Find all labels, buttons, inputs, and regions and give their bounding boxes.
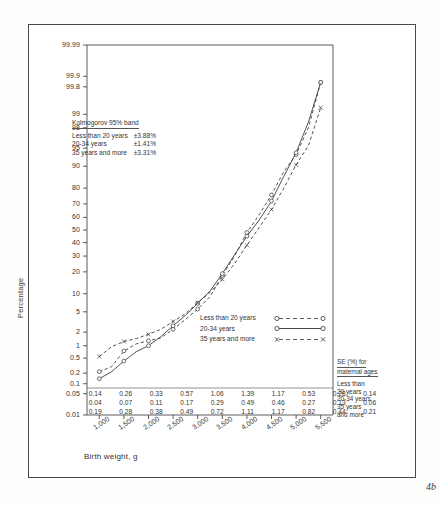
legend-label: 35 years and more bbox=[200, 334, 274, 345]
se-side-legend: SE (%) for maternal ages Less than 20 ye… bbox=[337, 358, 407, 418]
y-tick-label: 60 bbox=[38, 213, 80, 220]
y-tick-label: 80 bbox=[38, 184, 80, 191]
y-tick-label: 5 bbox=[38, 308, 80, 315]
se-cell: 0.72 bbox=[202, 407, 233, 416]
se-cell: 0.57 bbox=[172, 389, 203, 398]
se-cell: 0.17 bbox=[172, 398, 203, 407]
se-cell: 0.27 bbox=[294, 398, 325, 407]
chart-legend: Less than 20 years 20-34 years 35 year bbox=[200, 313, 326, 345]
y-tick-label: 99 bbox=[38, 110, 80, 117]
se-header-line2: maternal ages bbox=[337, 368, 378, 378]
kolmogorov-label: 35 years and more bbox=[72, 149, 128, 157]
y-tick-label: 99.8 bbox=[38, 83, 80, 90]
kolmogorov-row: 35 years and more ±3.31% bbox=[72, 149, 156, 157]
se-cell: 0.14 bbox=[80, 389, 111, 398]
y-tick-label: 0.01 bbox=[38, 411, 80, 418]
kolmogorov-row: Less than 20 years ±3.88% bbox=[72, 132, 156, 140]
se-cell: 0.28 bbox=[111, 407, 142, 416]
y-tick-label: 30 bbox=[38, 252, 80, 259]
se-cell: 0.04 bbox=[80, 398, 111, 407]
y-tick-label: 40 bbox=[38, 239, 80, 246]
y-tick-label: 90 bbox=[38, 162, 80, 169]
se-row-label: and more bbox=[337, 411, 407, 419]
legend-item-20-34: 20-34 years bbox=[200, 324, 326, 335]
se-cell: 0.49 bbox=[172, 407, 203, 416]
se-cell: 0.46 bbox=[263, 398, 294, 407]
se-cell: 0.49 bbox=[233, 398, 264, 407]
se-header-line1: SE (%) for bbox=[337, 358, 366, 368]
se-row-label: Less than bbox=[337, 380, 407, 388]
se-cell: 1.39 bbox=[233, 389, 264, 398]
se-cell: 0.38 bbox=[141, 407, 172, 416]
y-tick-label: 0.2 bbox=[38, 369, 80, 376]
y-tick-label: 50 bbox=[38, 226, 80, 233]
se-cell: 1.17 bbox=[263, 389, 294, 398]
se-cell: 1.17 bbox=[263, 407, 294, 416]
se-cell: 0.11 bbox=[141, 398, 172, 407]
figure-number: 4b bbox=[426, 481, 436, 492]
kolmogorov-row: 20-34 years ±1.41% bbox=[72, 140, 156, 148]
kolmogorov-value: ±3.88% bbox=[128, 132, 156, 140]
legend-marker-dashed-circle bbox=[274, 314, 326, 323]
legend-marker-dashed-cross bbox=[274, 335, 326, 344]
legend-label: 20-34 years bbox=[200, 324, 274, 335]
se-cell: 0.33 bbox=[141, 389, 172, 398]
y-axis-title: Percentage bbox=[16, 278, 25, 318]
legend-marker-solid-circle bbox=[274, 324, 326, 333]
y-tick-label: 20 bbox=[38, 268, 80, 275]
figure-page: 99.9999.999.8999895908070605040302010521… bbox=[0, 0, 442, 506]
y-tick-label: 2 bbox=[38, 328, 80, 335]
kolmogorov-table: Less than 20 years ±3.88% 20-34 years ±1… bbox=[72, 132, 156, 157]
se-cell: 0.19 bbox=[80, 407, 111, 416]
se-cell: 0.26 bbox=[111, 389, 142, 398]
se-row-label: 35 years bbox=[337, 403, 407, 411]
y-tick-label: 1 bbox=[38, 342, 80, 349]
kolmogorov-header: Kolmogorov 95% band bbox=[72, 119, 139, 129]
kolmogorov-label: 20-34 years bbox=[72, 140, 128, 148]
y-tick-label: 70 bbox=[38, 200, 80, 207]
se-cell: 0.07 bbox=[111, 398, 142, 407]
se-row-label: 20-34 years bbox=[337, 395, 407, 403]
y-tick-label: 0.1 bbox=[38, 380, 80, 387]
se-row-label: 20 years bbox=[337, 388, 407, 396]
se-cell: 0.82 bbox=[294, 407, 325, 416]
legend-label: Less than 20 years bbox=[200, 313, 274, 324]
y-tick-label: 10 bbox=[38, 290, 80, 297]
se-cell: 0.29 bbox=[202, 398, 233, 407]
x-axis-title: Birth weight, g bbox=[84, 452, 138, 461]
kolmogorov-value: ±3.31% bbox=[128, 149, 156, 157]
y-tick-label: 0.5 bbox=[38, 354, 80, 361]
y-tick-label: 99.9 bbox=[38, 72, 80, 79]
kolmogorov-label: Less than 20 years bbox=[72, 132, 128, 140]
kolmogorov-value: ±1.41% bbox=[128, 140, 156, 148]
y-tick-label: 99.99 bbox=[38, 41, 80, 48]
y-tick-label: 0.05 bbox=[38, 390, 80, 397]
legend-item-35-and-more: 35 years and more bbox=[200, 334, 326, 345]
se-cell: 1.11 bbox=[233, 407, 264, 416]
se-cell: 0.53 bbox=[294, 389, 325, 398]
legend-item-less-than-20: Less than 20 years bbox=[200, 313, 326, 324]
kolmogorov-band-annotation: Kolmogorov 95% band Less than 20 years ±… bbox=[72, 119, 156, 157]
se-cell: 1.06 bbox=[202, 389, 233, 398]
